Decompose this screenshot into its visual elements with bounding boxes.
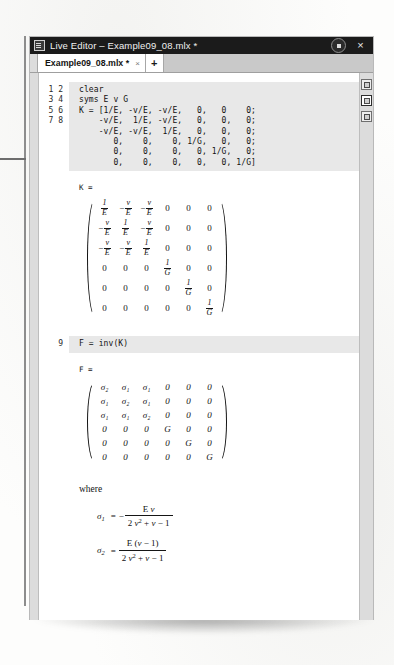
fraction-denominator: 2 v2 + v − 1 <box>119 550 167 563</box>
matrix-cell: σ₂ <box>136 408 157 422</box>
minimize-button[interactable] <box>331 38 346 53</box>
new-tab-button[interactable]: + <box>146 54 164 72</box>
matrix-cell: 0 <box>178 298 199 318</box>
fraction-denominator: E <box>125 208 132 218</box>
fraction: vE <box>125 239 132 257</box>
minus-sign: − <box>140 203 145 213</box>
fraction-numerator: 1 <box>165 259 171 268</box>
scanned-book-page: Live Editor – Example09_08.mlx * × Examp… <box>0 0 394 665</box>
fraction-numerator: v <box>147 219 153 228</box>
f-matrix-rows: σ₂σ₁σ₁000σ₁σ₂σ₁000σ₁σ₁σ₂000000G000000G00… <box>94 380 220 464</box>
matrix-cell: 1G <box>178 278 199 298</box>
fraction-denominator: E <box>143 248 150 258</box>
matrix-cell: 0 <box>115 298 136 318</box>
matrix-paren-right <box>220 198 229 318</box>
code-cell-1[interactable]: 1 2 3 4 5 6 7 8 clear syms E v G K = [1/… <box>39 82 359 171</box>
sigma-symbol: σ1 <box>97 511 105 522</box>
output-hidden-icon[interactable] <box>361 111 372 122</box>
matrix-cell: σ₂ <box>115 394 136 408</box>
fraction: E v2 v2 + v − 1 <box>125 504 173 529</box>
matrix-cell: 0 <box>115 436 136 450</box>
output-right-icon[interactable] <box>361 95 372 106</box>
output-label-f: F = <box>79 365 349 374</box>
code-text-2[interactable]: F = inv(K) <box>69 336 359 352</box>
window-drop-shadow <box>34 618 374 634</box>
matrix-cell: 1E <box>136 238 157 258</box>
matrix-cell: 0 <box>178 408 199 422</box>
matrix-cell: 0 <box>136 450 157 464</box>
matrix-row: σ₁σ₂σ₁000 <box>94 394 220 408</box>
matrix-cell: 0 <box>178 238 199 258</box>
fraction-denominator: E <box>122 228 129 238</box>
matrix-cell: 0 <box>157 394 178 408</box>
matrix-cell: 0 <box>178 258 199 278</box>
matrix-cell: 0 <box>178 198 199 218</box>
tab-strip-handle[interactable] <box>30 54 38 72</box>
sigma-symbol: σ2 <box>97 545 105 556</box>
minus-sign: − <box>119 203 124 213</box>
tab-strip: Example09_08.mlx * × + <box>30 54 373 73</box>
fraction-numerator: 1 <box>186 279 192 288</box>
fraction: 1E <box>101 199 108 217</box>
tab-label: Example09_08.mlx * <box>45 58 129 68</box>
matrix-cell: 0 <box>178 450 199 464</box>
fraction: vE <box>146 199 153 217</box>
matrix-cell: 0 <box>136 422 157 436</box>
equals-sign: = <box>111 511 116 521</box>
fraction-denominator: E <box>104 248 111 258</box>
output-inline-icon[interactable] <box>361 79 372 90</box>
code-text-1[interactable]: clear syms E v G K = [1/E, -v/E, -v/E, 0… <box>69 82 359 171</box>
minus-sign: − <box>119 243 124 253</box>
fraction-denominator: E <box>146 208 153 218</box>
k-matrix: 1E−vE−vE000−vE1E−vE000−vE−vE1E0000001G00… <box>85 198 229 318</box>
matrix-cell: 0 <box>157 380 178 394</box>
matrix-cell: −vE <box>136 218 157 238</box>
fraction-denominator: E <box>104 228 111 238</box>
matrix-cell: σ₁ <box>115 380 136 394</box>
matrix-cell: 0 <box>136 298 157 318</box>
matrix-row: −vE1E−vE000 <box>94 218 220 238</box>
tab-example09-08[interactable]: Example09_08.mlx * × <box>38 54 146 72</box>
matrix-row: 00000G <box>94 450 220 464</box>
matrix-row: 00001G0 <box>94 278 220 298</box>
fraction-numerator: 1 <box>143 239 149 248</box>
fraction: vE <box>125 199 132 217</box>
sigma-definition: σ2=E (v − 1)2 v2 + v − 1 <box>97 538 349 563</box>
matrix-cell: −vE <box>115 238 136 258</box>
matrix-cell: 0 <box>136 436 157 450</box>
fraction-numerator: 1 <box>207 299 213 308</box>
fraction: 1G <box>185 279 193 297</box>
matrix-row: σ₂σ₁σ₁000 <box>94 380 220 394</box>
close-icon[interactable]: × <box>354 39 367 52</box>
matrix-cell: −vE <box>136 198 157 218</box>
fraction: 1E <box>143 239 150 257</box>
fraction-numerator: 1 <box>122 219 128 228</box>
matrix-cell: 0 <box>157 238 178 258</box>
matrix-row: σ₁σ₁σ₂000 <box>94 408 220 422</box>
fraction-numerator: v <box>126 199 132 208</box>
matrix-cell: G <box>178 436 199 450</box>
matrix-cell: 0 <box>178 422 199 436</box>
matrix-cell: 0 <box>157 198 178 218</box>
matrix-cell: −vE <box>115 198 136 218</box>
f-matrix: σ₂σ₁σ₁000σ₁σ₂σ₁000σ₁σ₁σ₂000000G000000G00… <box>85 380 229 464</box>
matrix-paren-left <box>85 380 94 464</box>
live-editor-window: Live Editor – Example09_08.mlx * × Examp… <box>29 36 374 620</box>
fraction: E (v − 1)2 v2 + v − 1 <box>119 538 167 563</box>
matrix-cell: 0 <box>178 218 199 238</box>
tab-close-icon[interactable]: × <box>135 59 140 68</box>
matrix-cell: 1E <box>115 218 136 238</box>
minus-sign: − <box>140 223 145 233</box>
live-script-document[interactable]: 1 2 3 4 5 6 7 8 clear syms E v G K = [1/… <box>39 73 359 620</box>
equals-sign: = <box>111 546 116 556</box>
tab-strip-filler <box>164 54 373 72</box>
output-display-rail <box>359 73 373 620</box>
editor-body: 1 2 3 4 5 6 7 8 clear syms E v G K = [1/… <box>30 73 373 620</box>
where-label: where <box>79 484 349 494</box>
fraction: 1G <box>206 299 214 317</box>
matrix-cell: 0 <box>115 278 136 298</box>
code-cell-2[interactable]: 9 F = inv(K) <box>39 336 359 352</box>
matrix-row: 000G00 <box>94 422 220 436</box>
fraction-denominator: E <box>146 228 153 238</box>
matrix-cell: 0 <box>178 394 199 408</box>
